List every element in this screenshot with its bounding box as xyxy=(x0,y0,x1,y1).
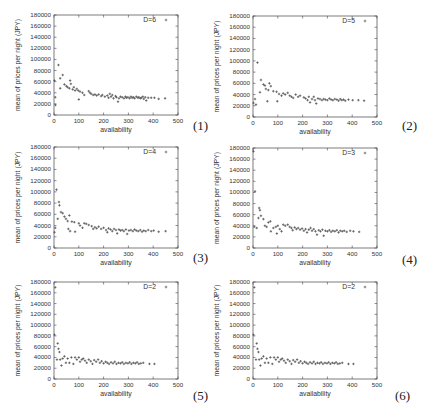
x-tick-label: 0 xyxy=(52,117,56,124)
y-tick-label: 140000 xyxy=(30,33,51,40)
x-axis-label: availability xyxy=(100,126,132,134)
x-tick-label: 200 xyxy=(98,117,109,124)
y-tick-label: 80000 xyxy=(233,68,251,75)
x-tick-label: 100 xyxy=(74,117,85,124)
y-tick-label: 100000 xyxy=(229,188,250,195)
y-axis-label: mean of prices per night (JPY) xyxy=(14,152,22,244)
scatter-plot-2: 0200004000060000800001000001200001400001… xyxy=(212,0,424,140)
x-tick-label: 300 xyxy=(123,117,134,124)
y-tick-label: 180000 xyxy=(229,280,250,285)
y-tick-label: 20000 xyxy=(34,233,52,240)
y-tick-label: 80000 xyxy=(34,199,52,206)
y-tick-label: 60000 xyxy=(233,211,251,218)
scatter-points xyxy=(53,188,167,235)
x-tick-label: 400 xyxy=(148,250,159,257)
y-tick-label: 0 xyxy=(247,244,251,251)
legend-marker-icon xyxy=(165,19,168,22)
y-tick-label: 140000 xyxy=(229,300,250,307)
y-tick-label: 160000 xyxy=(30,22,51,29)
scatter-panel-3: 0200004000060000800001000001200001400001… xyxy=(0,140,212,280)
x-tick-label: 400 xyxy=(148,381,159,388)
y-tick-label: 40000 xyxy=(34,222,52,229)
legend-marker-icon xyxy=(165,151,168,154)
x-tick-label: 100 xyxy=(74,250,85,257)
scatter-plot-3: 0200004000060000800001000001200001400001… xyxy=(0,140,212,280)
y-tick-label: 180000 xyxy=(30,280,51,285)
x-axis-label: availability xyxy=(299,259,331,267)
panel-label-5: (5) xyxy=(193,388,208,404)
y-tick-label: 80000 xyxy=(233,200,251,207)
y-tick-label: 140000 xyxy=(30,300,51,307)
legend-label: D=6 xyxy=(143,16,156,23)
legend-label: D=4 xyxy=(143,148,156,155)
x-tick-label: 0 xyxy=(251,119,255,126)
x-axis-label: availability xyxy=(299,128,331,136)
y-tick-label: 20000 xyxy=(34,100,52,107)
x-tick-label: 0 xyxy=(52,250,56,257)
scatter-panel-5: 0200004000060000800001000001200001400001… xyxy=(0,280,212,419)
y-tick-label: 140000 xyxy=(229,166,250,173)
y-tick-label: 100000 xyxy=(30,55,51,62)
y-tick-label: 0 xyxy=(247,113,251,120)
y-tick-label: 100000 xyxy=(30,188,51,195)
y-tick-label: 60000 xyxy=(233,79,251,86)
y-tick-label: 20000 xyxy=(233,233,251,240)
legend-label: D=3 xyxy=(342,149,355,156)
scatter-points xyxy=(252,286,354,367)
x-tick-label: 500 xyxy=(372,250,383,257)
y-tick-label: 80000 xyxy=(34,67,52,74)
y-tick-label: 0 xyxy=(48,375,52,382)
y-tick-label: 0 xyxy=(48,244,52,251)
y-tick-label: 40000 xyxy=(233,91,251,98)
y-tick-label: 160000 xyxy=(30,289,51,296)
y-tick-label: 60000 xyxy=(34,343,52,350)
x-axis-label: availability xyxy=(100,390,132,398)
y-axis-label: mean of prices per night (JPY) xyxy=(14,285,22,377)
x-tick-label: 200 xyxy=(297,381,308,388)
scatter-plot-4: 0200004000060000800001000001200001400001… xyxy=(212,140,424,280)
y-tick-label: 120000 xyxy=(229,46,250,53)
y-axis-label: mean of prices per night (JPY) xyxy=(14,19,22,111)
plot-frame xyxy=(253,148,377,248)
x-axis-label: availability xyxy=(100,259,132,267)
scatter-panel-4: 0200004000060000800001000001200001400001… xyxy=(212,140,424,280)
x-tick-label: 0 xyxy=(251,250,255,257)
y-tick-label: 20000 xyxy=(34,364,52,371)
y-tick-label: 100000 xyxy=(229,57,250,64)
y-tick-label: 160000 xyxy=(229,23,250,30)
y-tick-label: 100000 xyxy=(229,321,250,328)
y-tick-label: 60000 xyxy=(34,210,52,217)
y-tick-label: 20000 xyxy=(233,102,251,109)
y-tick-label: 180000 xyxy=(30,11,51,18)
scatter-panel-6: 0200004000060000800001000001200001400001… xyxy=(212,280,424,419)
legend-marker-icon xyxy=(364,286,367,289)
x-tick-label: 200 xyxy=(98,250,109,257)
y-tick-label: 80000 xyxy=(34,332,52,339)
panel-label-6: (6) xyxy=(395,388,410,404)
y-tick-label: 180000 xyxy=(30,143,51,150)
x-tick-label: 300 xyxy=(322,250,333,257)
y-tick-label: 40000 xyxy=(233,353,251,360)
y-tick-label: 160000 xyxy=(30,154,51,161)
x-tick-label: 200 xyxy=(297,119,308,126)
legend-marker-icon xyxy=(364,152,367,155)
y-tick-label: 120000 xyxy=(30,177,51,184)
panel-label-1: (1) xyxy=(193,118,208,134)
panel-label-4: (4) xyxy=(402,252,417,268)
y-tick-label: 160000 xyxy=(229,155,250,162)
legend-marker-icon xyxy=(364,20,367,23)
scatter-points xyxy=(53,286,155,367)
x-tick-label: 400 xyxy=(148,117,159,124)
legend-label: D=2 xyxy=(342,283,355,290)
x-tick-label: 400 xyxy=(347,119,358,126)
x-tick-label: 200 xyxy=(297,250,308,257)
scatter-points xyxy=(252,150,360,237)
y-tick-label: 120000 xyxy=(30,310,51,317)
y-tick-label: 20000 xyxy=(233,364,251,371)
y-tick-label: 140000 xyxy=(229,34,250,41)
y-tick-label: 0 xyxy=(48,111,52,118)
plot-frame xyxy=(253,16,377,117)
panel-label-2: (2) xyxy=(402,118,417,134)
x-tick-label: 0 xyxy=(251,381,255,388)
x-tick-label: 100 xyxy=(273,119,284,126)
